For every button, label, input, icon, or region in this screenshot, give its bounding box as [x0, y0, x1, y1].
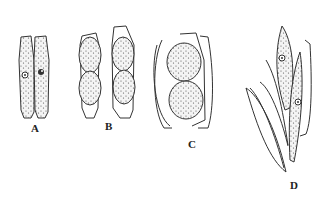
- panel-label-b: B: [105, 120, 112, 132]
- panel-a-drawing: [19, 36, 49, 118]
- panel-label-d: D: [290, 179, 298, 191]
- panel-label-a: A: [31, 122, 39, 134]
- figure-drawing: [0, 0, 328, 199]
- panel-c-drawing: [154, 33, 213, 128]
- panel-b-drawing: [79, 26, 135, 118]
- panel-d-drawing: [246, 26, 311, 172]
- panel-label-c: C: [188, 138, 196, 150]
